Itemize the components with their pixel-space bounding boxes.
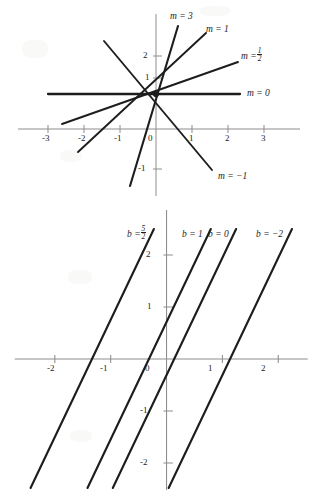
line-m-3 [130,26,178,186]
top-ytick--1: -1 [138,164,146,173]
fraction-denominator: 2 [257,54,263,63]
top-chart-panel: -3 -2 -1 0 1 2 3 2 1 -1 m = 3 m = 1 m =1… [0,0,312,200]
five-halves-fraction: 52 [141,225,147,241]
line-m-neg-1 [104,41,212,170]
top-xtick-2: 2 [225,134,230,143]
top-y-ticks [153,56,162,169]
bottom-xtick--1: -1 [100,364,108,373]
bottom-xtick-2: 2 [261,364,266,373]
label-m-one-half: m =12 [241,48,262,64]
label-b-1: b = 1 [182,230,203,240]
bottom-chart-svg [0,200,312,496]
top-xtick-3: 3 [261,134,266,143]
bottom-ytick--1: -1 [140,406,148,415]
label-m-1: m = 1 [206,25,229,35]
bottom-ytick-2: 2 [146,250,151,259]
top-xtick--3: -3 [42,134,50,143]
top-xtick-0: 0 [148,134,153,143]
origin-node [153,91,159,97]
label-m-3: m = 3 [170,12,193,22]
fraction-denominator: 2 [141,232,147,241]
bottom-chart-panel: -2 -1 0 1 2 2 1 -1 -2 b =52 b = 1 b = 0 … [0,200,312,496]
label-b-five-halves: b =52 [127,226,146,242]
label-b-five-halves-prefix: b = [127,229,141,239]
top-xtick--1: -1 [114,134,122,143]
one-half-fraction: 12 [257,47,263,63]
label-b-0: b = 0 [208,230,229,240]
bottom-ytick--2: -2 [140,458,148,467]
bottom-xtick-1: 1 [208,364,213,373]
top-xtick--2: -2 [78,134,86,143]
fraction-numerator: 5 [141,225,147,233]
top-chart-svg [0,0,312,200]
top-ytick-2: 2 [143,51,148,60]
figure-root: -3 -2 -1 0 1 2 3 2 1 -1 m = 3 m = 1 m =1… [0,0,312,496]
label-b-neg-2: b = −2 [256,230,283,240]
label-m-one-half-prefix: m = [241,51,257,61]
fraction-numerator: 1 [257,47,263,55]
label-m-0: m = 0 [247,89,270,99]
line-m-1 [78,33,206,152]
bottom-xtick--2: -2 [47,364,55,373]
bottom-xtick-0: 0 [145,364,150,373]
bottom-ytick-1: 1 [147,302,152,311]
label-m-neg-1: m = −1 [218,172,247,182]
top-ytick-1: 1 [145,73,150,82]
top-xtick-1: 1 [189,134,194,143]
